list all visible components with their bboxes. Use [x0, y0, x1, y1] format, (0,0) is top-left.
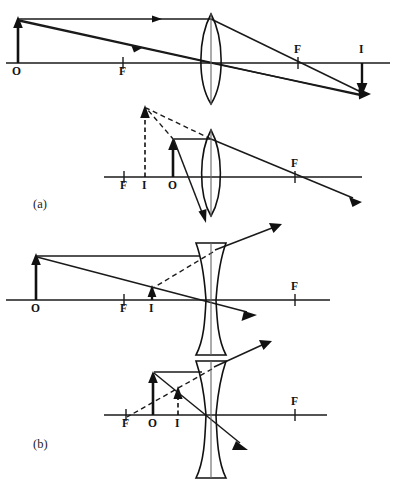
ray-parallel-direction-head — [152, 15, 162, 22]
ray-focus-incident — [19, 21, 211, 63]
label-focus-left-b-bottom: F — [122, 418, 129, 430]
object-arrow-head — [31, 253, 41, 265]
label-image-b-top: I — [149, 303, 153, 315]
label-focus-left-a-bottom: F — [120, 180, 127, 192]
label-focus-left-b-top: F — [120, 303, 127, 315]
panel-label-b: (b) — [33, 438, 48, 451]
label-focus-right-b-top: F — [291, 281, 298, 293]
label-focus-right-a-bottom: F — [291, 158, 298, 170]
ray-parallel-refracted-head — [349, 197, 362, 207]
diagram-a-bottom — [104, 105, 362, 223]
ray-parallel-refracted — [211, 139, 353, 198]
panel-label-a: (a) — [33, 198, 47, 211]
diagram-b-top — [6, 223, 330, 355]
figure-page: O F F I F I O F (a) O F I F F O I F (b) — [0, 0, 396, 487]
ray-center-head — [242, 311, 258, 321]
ray-focus-refracted — [211, 63, 363, 95]
label-focus-right-a-top: F — [294, 44, 301, 56]
ray-parallel-refracted — [214, 345, 262, 367]
label-image-a-top: I — [359, 44, 363, 56]
label-focus-right-b-bottom: F — [291, 396, 298, 408]
ray-parallel-refracted — [211, 19, 363, 93]
label-object-b-bottom: O — [148, 418, 157, 430]
label-image-a-bottom: I — [142, 180, 146, 192]
label-object-b-top: O — [31, 303, 40, 315]
ray-diagram-figure — [0, 0, 396, 487]
diagram-b-bottom — [104, 340, 327, 478]
label-focus-left-a-top: F — [119, 66, 126, 78]
label-object-a-bottom: O — [168, 180, 177, 192]
diagram-a-top — [6, 14, 390, 104]
ray-center-through — [154, 373, 240, 443]
object-arrow-head — [148, 371, 158, 383]
label-object-a-top: O — [12, 66, 21, 78]
label-image-b-bottom: I — [175, 418, 179, 430]
ray-center-head — [199, 209, 207, 223]
virtual-extension-center — [147, 109, 174, 140]
virtual-extension-parallel — [146, 108, 211, 139]
ray-parallel-refracted — [215, 228, 272, 250]
